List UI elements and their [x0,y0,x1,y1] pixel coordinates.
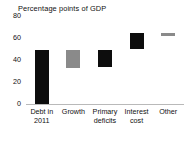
x-tick-label-line: Growth [58,107,90,116]
bar-primary-deficits [98,50,112,67]
x-tick-label: Other [152,107,184,116]
y-tick-label: 0 [17,100,21,108]
x-axis-baseline [26,104,184,105]
plot-area [26,16,184,104]
bar-debt-in-2011 [35,50,49,104]
bar-interest-cost [130,33,144,50]
x-axis: Debt in2011GrowthPrimarydeficitsInterest… [26,107,184,137]
x-tick-label: Primarydeficits [89,107,121,125]
y-tick-label: 20 [13,78,21,86]
x-tick-label-line: cost [121,116,153,125]
x-tick-label: Interestcost [121,107,153,125]
x-tick-label-line: deficits [89,116,121,125]
y-axis: 020406080 [0,16,24,104]
x-tick-label-line: Interest [121,107,153,116]
chart-title: Percentage points of GDP [18,4,106,13]
y-tick-label: 80 [13,12,21,20]
x-tick-label-line: 2011 [26,116,58,125]
x-tick-label-line: Other [152,107,184,116]
y-tick-label: 40 [13,56,21,64]
chart-container: Percentage points of GDP 020406080 Debt … [0,0,189,141]
bar-other [161,33,175,36]
bar-growth [66,50,80,68]
x-tick-label: Debt in2011 [26,107,58,125]
x-tick-label-line: Primary [89,107,121,116]
x-tick-label: Growth [58,107,90,116]
x-tick-label-line: Debt in [26,107,58,116]
y-tick-label: 60 [13,34,21,42]
